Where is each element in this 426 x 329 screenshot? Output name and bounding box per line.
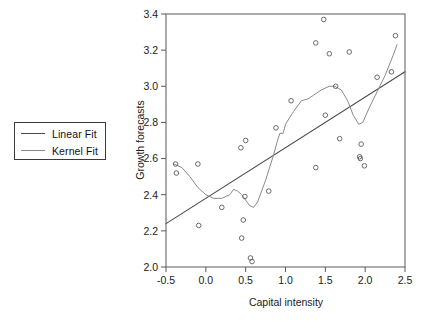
legend-swatch-linear-fit xyxy=(21,133,45,134)
y-tick-label: 2.4 xyxy=(143,189,158,201)
y-tick-label: 3.2 xyxy=(143,44,158,56)
y-tick-label: 2.0 xyxy=(143,261,158,273)
legend-label-kernel-fit: Kernel Fit xyxy=(52,145,98,157)
x-tick-label: 1.0 xyxy=(278,274,293,286)
y-axis-ticks: 2.02.22.42.62.83.03.23.4 xyxy=(143,8,166,273)
y-tick-label: 2.2 xyxy=(143,225,158,237)
legend-label-linear-fit: Linear Fit xyxy=(52,128,97,140)
x-tick-label: 2.0 xyxy=(358,274,373,286)
x-axis-title: Capital intensity xyxy=(249,296,324,308)
legend-item-linear-fit: Linear Fit xyxy=(15,125,105,142)
y-tick-label: 3.4 xyxy=(143,8,158,20)
y-axis-title: Growth forecasts xyxy=(134,100,146,179)
legend-swatch-kernel-fit xyxy=(21,150,45,151)
x-tick-label: 1.5 xyxy=(318,274,333,286)
scatter-plot-figure: 2.02.22.42.62.83.03.23.4 -0.50.00.51.01.… xyxy=(0,0,426,329)
plot-frame xyxy=(166,14,405,267)
y-tick-label: 3.0 xyxy=(143,80,158,92)
x-tick-label: 0.5 xyxy=(238,274,253,286)
x-tick-label: 2.5 xyxy=(398,274,413,286)
x-tick-label: -0.5 xyxy=(157,274,175,286)
legend: Linear Fit Kernel Fit xyxy=(14,122,106,160)
legend-item-kernel-fit: Kernel Fit xyxy=(15,142,105,159)
x-tick-label: 0.0 xyxy=(199,274,214,286)
x-axis-ticks: -0.50.00.51.01.52.02.5 xyxy=(157,267,412,286)
